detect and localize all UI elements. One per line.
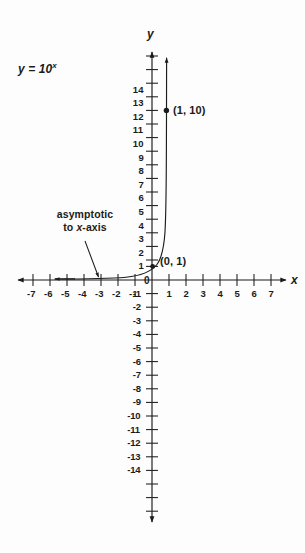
curve-path — [55, 58, 167, 279]
y-tick-label: 13 — [133, 98, 144, 108]
y-tick-label: -4 — [133, 329, 141, 339]
y-tick-label: -10 — [127, 411, 140, 421]
x-tick-label: -2 — [112, 289, 121, 299]
y-tick-label: -11 — [127, 425, 140, 435]
x-tick-label: 7 — [269, 289, 274, 299]
y-tick-label: 14 — [133, 85, 144, 95]
x-tick-label: 1 — [167, 289, 172, 299]
equation-exponent: x — [52, 61, 57, 70]
x-axis-label: x — [291, 274, 298, 286]
graph-figure: y x y = 10x (1, 10) (0, 1) asymptotic to… — [0, 0, 305, 553]
y-tick-label: -14 — [127, 465, 140, 475]
x-tick-label: 2 — [184, 289, 189, 299]
cartesian-plane-svg — [0, 0, 305, 553]
y-tick-label: 1 — [138, 261, 143, 271]
asymptote-annotation-arrow — [85, 241, 99, 277]
point-label-0-1: (0, 1) — [160, 256, 186, 267]
y-axis-label: y — [147, 28, 154, 40]
y-tick-label: 3 — [138, 234, 143, 244]
x-tick-label: 3 — [201, 289, 206, 299]
y-tick-label: 7 — [138, 180, 143, 190]
equation-text: y = 10 — [18, 62, 52, 76]
y-tick-label: 6 — [138, 193, 143, 203]
y-tick-label: 2 — [138, 248, 143, 258]
y-axis — [146, 52, 158, 522]
x-tick-label: -4 — [78, 289, 87, 299]
asymptote-annotation-line1: asymptotic — [37, 208, 133, 221]
y-tick-label: -7 — [133, 370, 141, 380]
y-tick-label: -2 — [133, 302, 141, 312]
x-tick-label: 4 — [218, 289, 223, 299]
y-tick-label: 5 — [138, 207, 143, 217]
y-tick-label: 11 — [133, 125, 143, 135]
y-tick-label: -13 — [127, 452, 140, 462]
y-tick-label: -8 — [133, 384, 141, 394]
x-tick-label: -3 — [95, 289, 104, 299]
x-tick-label: -6 — [44, 289, 53, 299]
x-tick-label: 6 — [252, 289, 257, 299]
x-tick-label: -7 — [27, 289, 36, 299]
y-tick-label: 8 — [138, 166, 143, 176]
y-tick-label: -5 — [133, 343, 141, 353]
origin-label: 0 — [144, 276, 150, 286]
point-label-1-10: (1, 10) — [173, 105, 206, 116]
y-tick-label: -12 — [127, 438, 140, 448]
asymptote-annotation: asymptotic to x-axis — [37, 208, 133, 235]
point-marker-0-1 — [150, 264, 155, 269]
point-marker-1-10 — [164, 108, 169, 113]
exponential-curve — [55, 58, 167, 279]
x-tick-label: -5 — [61, 289, 70, 299]
y-tick-label: 10 — [133, 139, 144, 149]
x-tick-label: 5 — [235, 289, 240, 299]
annotation-axis: -axis — [82, 221, 106, 233]
y-tick-label: 9 — [138, 153, 143, 163]
equation-label: y = 10x — [18, 62, 57, 75]
y-tick-label: -1 — [133, 289, 141, 299]
asymptote-annotation-line2: to x-axis — [37, 221, 133, 234]
y-tick-label: -9 — [133, 397, 141, 407]
y-tick-label: 12 — [133, 112, 144, 122]
y-tick-label: -3 — [133, 316, 141, 326]
y-tick-label: 4 — [138, 221, 143, 231]
y-tick-label: -6 — [133, 357, 141, 367]
annotation-to: to — [63, 221, 76, 233]
